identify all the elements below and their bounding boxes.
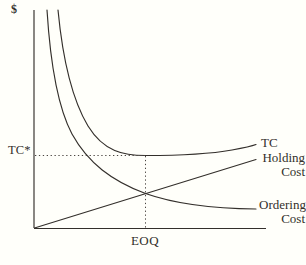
series-curve-ordering-cost xyxy=(47,10,256,209)
x-axis-tick-label-eoq: EOQ xyxy=(131,234,159,248)
eoq-cost-curve-figure: $ TC* EOQ TC Holding Cost Ordering Cost xyxy=(0,0,306,265)
series-label-ordering-cost: Ordering Cost xyxy=(259,198,305,226)
y-axis-title: $ xyxy=(11,3,17,16)
series-label-total-cost: TC xyxy=(261,136,278,150)
series-line-holding-cost xyxy=(35,160,257,229)
series-curve-total-cost xyxy=(58,10,256,156)
series-label-holding-cost: Holding Cost xyxy=(261,151,305,179)
y-axis-tick-label-tc-star: TC* xyxy=(8,144,31,158)
